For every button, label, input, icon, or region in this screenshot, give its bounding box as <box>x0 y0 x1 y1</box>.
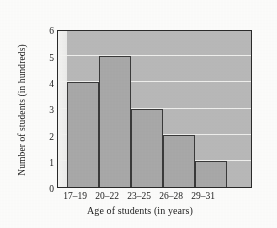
y-tick-label-2: 2 <box>40 133 54 143</box>
gridline-5 <box>58 55 251 56</box>
bar-23-25 <box>131 109 163 187</box>
y-axis-title: Number of students (in hundreds) <box>15 30 29 190</box>
y-tick-label-5: 5 <box>40 54 54 64</box>
y-tick-label-3: 3 <box>40 106 54 116</box>
histogram-figure: Number of students (in hundreds) 0 1 2 3… <box>0 0 277 228</box>
bar-26-28 <box>163 135 195 187</box>
x-tick-label-29-31: 29–31 <box>178 191 228 202</box>
bar-20-22 <box>99 56 131 187</box>
y-tick-label-1: 1 <box>40 159 54 169</box>
bar-17-19 <box>67 82 99 187</box>
bar-29-31 <box>195 161 227 187</box>
y-tick-label-6: 6 <box>40 27 54 37</box>
plot-area <box>57 30 252 188</box>
x-axis-title: Age of students (in years) <box>40 205 240 216</box>
y-tick-label-4: 4 <box>40 80 54 90</box>
